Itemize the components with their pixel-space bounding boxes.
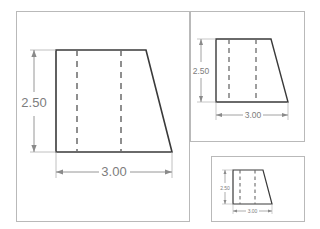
third-view-width-label: 3.00 bbox=[248, 208, 258, 214]
third-view-hdim-arrow-right bbox=[268, 210, 272, 213]
third-view-graphics: 2.50 3.00 bbox=[0, 0, 320, 229]
third-view-hdim-arrow-left bbox=[233, 210, 237, 213]
third-view-vdim-arrow-top bbox=[224, 170, 227, 174]
third-view-height-label: 2.50 bbox=[220, 185, 230, 191]
third-view-profile bbox=[233, 170, 272, 204]
drawing-canvas: 2.50 3.00 2.50 3.00 bbox=[0, 0, 320, 229]
third-view-vdim-arrow-bottom bbox=[224, 200, 227, 204]
